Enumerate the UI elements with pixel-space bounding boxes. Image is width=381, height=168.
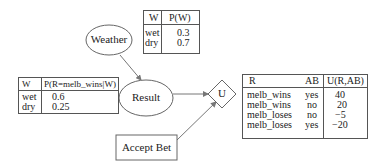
weather-label: Weather: [86, 33, 132, 45]
table-header: P(W): [169, 13, 191, 23]
table-cell: melb_loses: [247, 120, 292, 130]
edge-weather-result: [120, 55, 141, 80]
table-cell: 0.25: [52, 102, 70, 112]
table-header: AB: [305, 76, 319, 86]
result-label: Result: [119, 91, 173, 103]
table-cell: yes: [305, 120, 318, 130]
table-header: R: [249, 76, 256, 86]
table-cell: −20: [332, 120, 348, 130]
p-weather-table: W P(W) wet 0.3 dry 0.7: [143, 10, 200, 54]
accept-bet-label: Accept Bet: [116, 141, 177, 153]
p-result-table: W P(R=melb_wins|W) wet 0.6 dry 0.25: [18, 77, 119, 114]
table-header: W: [22, 79, 31, 89]
table-cell: 0.7: [177, 38, 190, 48]
table-header: W: [149, 13, 158, 23]
utility-label: U: [212, 87, 232, 99]
edge-acceptbet-u: [177, 102, 216, 140]
utility-table: R AB U(R,AB) melb_wins yes 40 melb_wins …: [242, 74, 368, 139]
table-cell: dry: [145, 38, 158, 48]
table-header: U(R,AB): [327, 76, 364, 86]
table-cell: dry: [22, 102, 35, 112]
table-header: P(R=melb_wins|W): [44, 79, 116, 89]
